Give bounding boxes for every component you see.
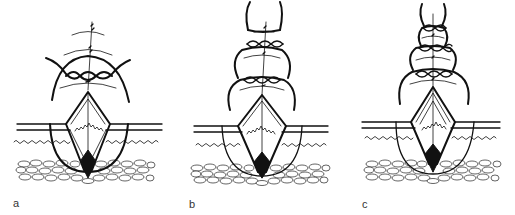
panel-b-label: b xyxy=(189,198,195,210)
skin-surface-lines xyxy=(17,124,162,130)
panel-c xyxy=(362,4,501,184)
panel-a-label: a xyxy=(13,197,19,209)
diagram-canvas xyxy=(0,0,515,215)
panel-b xyxy=(191,2,330,186)
skin-surface-lines xyxy=(194,126,328,132)
wound-base-clot xyxy=(254,152,270,178)
stacked-suture-loops xyxy=(228,2,295,110)
dermis-wavy-line xyxy=(196,144,326,147)
suture-diagram-figure: a b c xyxy=(0,0,515,215)
dermis-wavy-line xyxy=(365,137,496,140)
wound-base-clot xyxy=(425,144,441,172)
panel-c-label: c xyxy=(362,198,368,210)
panel-a xyxy=(14,22,162,184)
dermis-wavy-line xyxy=(14,141,158,144)
skin-surface-lines xyxy=(362,122,500,128)
